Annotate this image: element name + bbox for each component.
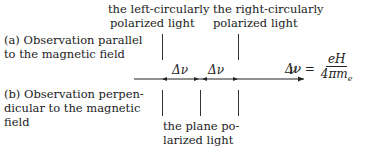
plane-line-left bbox=[162, 90, 163, 116]
plane-polarized-label: the plane po- larized light bbox=[163, 119, 239, 147]
denominator-text: 4πm bbox=[321, 67, 348, 81]
label-line: field bbox=[4, 115, 144, 129]
formula-numerator: eH bbox=[326, 52, 348, 67]
plane-line-right bbox=[238, 90, 239, 116]
denominator-subscript: e bbox=[348, 74, 353, 83]
zeeman-formula: Δν = eH 4πme bbox=[285, 52, 354, 86]
label-line: the plane po- bbox=[163, 119, 239, 133]
label-line: (b) Observation perpen- bbox=[4, 87, 144, 101]
label-line: dicular to the magnetic bbox=[4, 101, 144, 115]
delta-nu-label-2: Δν bbox=[208, 63, 224, 77]
formula-denominator: 4πme bbox=[319, 67, 355, 86]
delta-nu-label-1: Δν bbox=[172, 63, 188, 77]
label-line: larized light bbox=[163, 133, 239, 147]
case-b-label: (b) Observation perpen- dicular to the m… bbox=[4, 87, 144, 129]
plane-line-center bbox=[200, 90, 201, 116]
formula-lhs: Δν = bbox=[285, 62, 315, 76]
